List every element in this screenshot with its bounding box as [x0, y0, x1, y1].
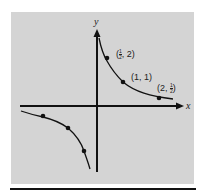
label-point-2-half: (2, 12) — [157, 83, 176, 94]
hyperbola-plot — [0, 0, 205, 196]
x-axis-label: x — [186, 100, 190, 111]
label-point-1-1: (1, 1) — [131, 72, 152, 82]
point-2-half — [157, 96, 162, 101]
point-neg2-neghalf — [41, 114, 46, 119]
data-points — [41, 56, 162, 154]
label-rest: , 2) — [122, 49, 135, 59]
y-axis-label: y — [94, 16, 98, 27]
x-axis-arrow — [176, 103, 184, 110]
point-neg1-neg1 — [66, 126, 71, 131]
label-open: (2, — [157, 83, 170, 93]
paren: ) — [173, 83, 176, 93]
curve-negative-branch — [21, 111, 90, 169]
point-half-2 — [105, 56, 110, 61]
point-1-1 — [121, 80, 126, 85]
bottom-rule — [10, 188, 196, 190]
label-point-half-2: (12, 2) — [116, 49, 135, 60]
y-axis-arrow — [94, 29, 101, 37]
point-neghalf-neg2 — [82, 149, 87, 154]
